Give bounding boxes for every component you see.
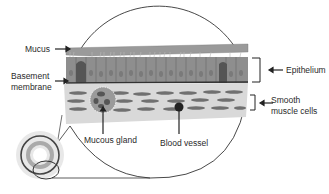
smooth-muscle-bracket: [250, 95, 255, 110]
goblet-cell: [76, 61, 86, 83]
label-basement-membrane-line1: Basement: [11, 71, 49, 81]
basement-membrane-line: [66, 82, 248, 83]
mucus-layer: [66, 44, 248, 56]
airway-ring-icon: [16, 131, 64, 179]
label-mucous-gland: Mucous gland: [84, 135, 137, 145]
label-epithelium: Epithelium: [286, 65, 326, 75]
label-blood-vessel: Blood vessel: [160, 138, 208, 148]
label-basement-membrane-line2: membrane: [11, 82, 52, 92]
goblet-cell: [219, 62, 227, 83]
label-mucus: Mucus: [25, 44, 50, 54]
label-smooth-muscle-line1: Smooth: [271, 95, 300, 105]
epithelium-bracket: [252, 58, 260, 82]
label-smooth-muscle-line2: muscle cells: [271, 106, 317, 116]
airway-diagram: Mucus Basement membrane Epithelium Smoot…: [0, 0, 329, 194]
